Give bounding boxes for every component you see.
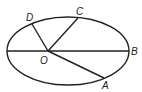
segment-oc [48, 18, 78, 51]
label-a: A [101, 80, 109, 91]
segment-oa [48, 51, 104, 78]
label-c: C [76, 6, 84, 17]
label-b: B [131, 46, 138, 57]
label-o: O [40, 55, 48, 66]
ellipse-diagram: D C O B A [0, 0, 142, 92]
label-d: D [26, 12, 33, 23]
segment-od [32, 24, 48, 51]
